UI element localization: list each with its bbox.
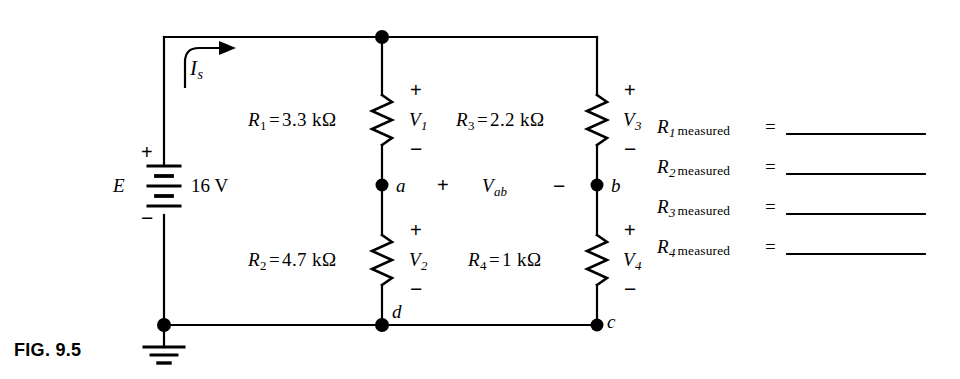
node-dot-ground <box>157 318 171 332</box>
v4-minus-sign: − <box>624 278 636 299</box>
measurement-label-r4: R4measured <box>657 236 730 261</box>
source-minus-sign: − <box>141 207 153 228</box>
resistor-label-r3-eq: = <box>475 109 490 130</box>
circuit-schematic <box>0 0 960 379</box>
measurement-equals-r2: = <box>765 156 776 178</box>
resistor-symbol-r2 <box>372 235 392 285</box>
resistor-label-r4: R4=1 kΩ <box>468 250 541 273</box>
node-label-b: b <box>611 176 621 195</box>
voltage-label-v2: V2 <box>409 250 428 273</box>
resistor-label-r2-value: 4.7 kΩ <box>282 249 337 270</box>
node-label-d: d <box>392 302 402 321</box>
resistor-symbol-r1 <box>372 95 392 145</box>
resistor-label-r1-value: 3.3 kΩ <box>282 109 337 130</box>
figure-9-5: Is E + − 16 V R1=3.3 kΩ + V1 − R3=2.2 kΩ… <box>0 0 960 379</box>
resistor-label-r2-base: R2 <box>248 249 267 270</box>
resistor-label-r3-base: R3 <box>456 109 475 130</box>
resistor-label-r4-base: R4 <box>468 249 487 270</box>
source-value-label: 16 V <box>191 176 228 195</box>
resistor-label-r2-eq: = <box>267 249 282 270</box>
v2-minus-sign: − <box>410 278 422 299</box>
resistor-label-r3-value: 2.2 kΩ <box>490 109 545 130</box>
vab-minus-sign: − <box>553 175 565 196</box>
measurement-equals-r1: = <box>765 116 776 138</box>
figure-caption: FIG. 9.5 <box>14 340 81 361</box>
resistor-label-r3: R3=2.2 kΩ <box>456 110 545 133</box>
node-label-c: c <box>607 312 615 331</box>
node-dot-d <box>375 318 389 332</box>
resistor-label-r4-eq: = <box>487 249 502 270</box>
measurement-equals-r4: = <box>765 236 776 258</box>
node-dot-top <box>375 30 389 44</box>
measurement-label-r1: R1measured <box>657 116 730 141</box>
node-dot-c <box>591 319 604 332</box>
node-label-a: a <box>396 176 406 195</box>
source-symbol-label: E <box>113 176 125 195</box>
v3-plus-sign: + <box>624 80 636 100</box>
resistor-label-r2: R2=4.7 kΩ <box>248 250 337 273</box>
resistor-label-r1: R1=3.3 kΩ <box>248 110 337 133</box>
node-dot-b <box>591 179 604 192</box>
node-dot-a <box>376 179 389 192</box>
source-current-base: I <box>190 56 197 80</box>
source-current-label: Is <box>190 58 203 81</box>
resistor-symbol-r4 <box>587 235 607 285</box>
source-current-sub: s <box>197 66 203 82</box>
resistor-label-r1-base: R1 <box>248 109 267 130</box>
resistor-label-r4-value: 1 kΩ <box>502 249 541 270</box>
measurement-equals-r3: = <box>765 196 776 218</box>
v4-plus-sign: + <box>624 220 636 240</box>
v1-minus-sign: − <box>410 138 422 159</box>
v3-minus-sign: − <box>624 138 636 159</box>
v2-plus-sign: + <box>410 220 422 240</box>
measurement-label-r2: R2measured <box>657 156 730 181</box>
voltage-label-v3: V3 <box>623 110 642 133</box>
measurement-label-r3: R3measured <box>657 196 730 221</box>
voltage-label-v1: V1 <box>409 110 428 133</box>
resistor-symbol-r3 <box>587 95 607 145</box>
source-plus-sign: + <box>141 142 153 162</box>
vab-plus-sign: + <box>437 175 449 195</box>
voltage-label-vab: Vab <box>482 176 507 199</box>
resistor-label-r1-eq: = <box>267 109 282 130</box>
current-arrow-head <box>219 41 236 55</box>
v1-plus-sign: + <box>410 80 422 100</box>
voltage-label-v4: V4 <box>623 250 642 273</box>
